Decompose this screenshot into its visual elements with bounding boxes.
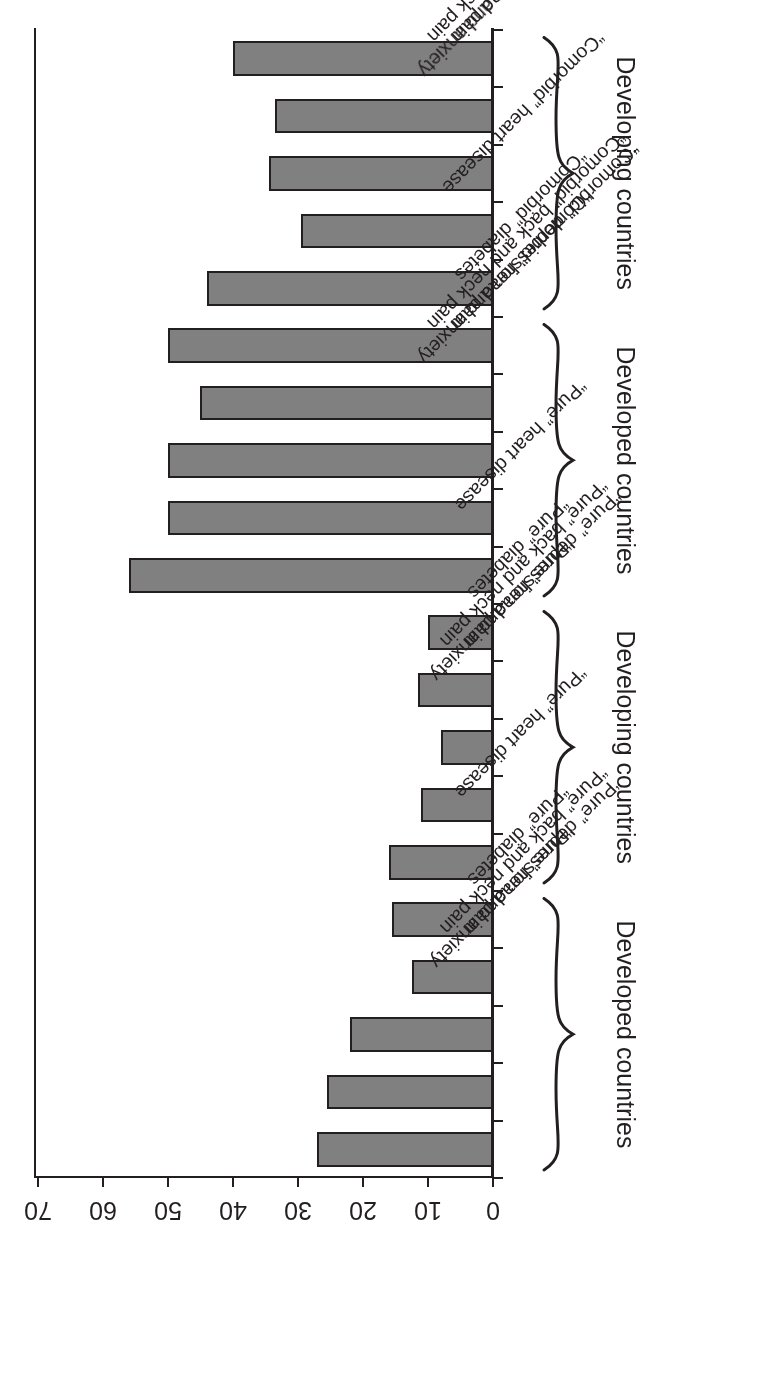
value-axis-tick-label: 20 xyxy=(333,1198,393,1223)
value-axis-tick xyxy=(492,1178,494,1187)
group-label: Developing countries xyxy=(611,36,640,312)
value-axis-tick-label: 0 xyxy=(463,1198,523,1223)
category-axis-tick xyxy=(494,1062,503,1064)
group-brace xyxy=(542,610,576,886)
value-axis-tick-label: 70 xyxy=(8,1198,68,1223)
category-axis-tick xyxy=(494,86,503,88)
category-axis-tick xyxy=(494,1005,503,1007)
value-axis-tick-label: 10 xyxy=(398,1198,458,1223)
group-label: Developed countries xyxy=(611,897,640,1173)
bar xyxy=(129,558,493,592)
category-axis-tick xyxy=(494,488,503,490)
category-axis-tick xyxy=(494,373,503,375)
category-axis-tick xyxy=(494,775,503,777)
value-axis-tick xyxy=(102,1178,104,1187)
category-axis-tick xyxy=(494,660,503,662)
value-axis-tick xyxy=(362,1178,364,1187)
category-axis-tick xyxy=(494,1177,503,1179)
group-label: Developed countries xyxy=(611,323,640,599)
value-axis-tick xyxy=(37,1178,39,1187)
category-axis-tick xyxy=(494,316,503,318)
value-axis-tick-label: 40 xyxy=(203,1198,263,1223)
value-axis-tick xyxy=(167,1178,169,1187)
group-brace xyxy=(542,323,576,599)
value-axis-tick-label: 50 xyxy=(138,1198,198,1223)
value-axis-tick-label: 30 xyxy=(268,1198,328,1223)
value-axis-tick-label: 60 xyxy=(73,1198,133,1223)
bar xyxy=(318,1132,494,1166)
category-axis-tick xyxy=(494,201,503,203)
value-axis-tick xyxy=(427,1178,429,1187)
bar xyxy=(327,1075,493,1109)
value-axis-tick xyxy=(297,1178,299,1187)
category-axis-tick xyxy=(494,1120,503,1122)
category-axis-tick xyxy=(494,947,503,949)
group-brace xyxy=(542,36,576,312)
rotated-chart-canvas: 010203040506070 “Pure” depression and an… xyxy=(0,0,758,1383)
group-brace xyxy=(542,897,576,1173)
chart-figure: 010203040506070 “Pure” depression and an… xyxy=(0,0,758,1383)
category-axis-tick xyxy=(494,29,503,31)
category-axis-tick xyxy=(494,718,503,720)
group-label: Developing countries xyxy=(611,610,640,886)
category-axis-tick xyxy=(494,431,503,433)
value-axis-tick xyxy=(232,1178,234,1187)
